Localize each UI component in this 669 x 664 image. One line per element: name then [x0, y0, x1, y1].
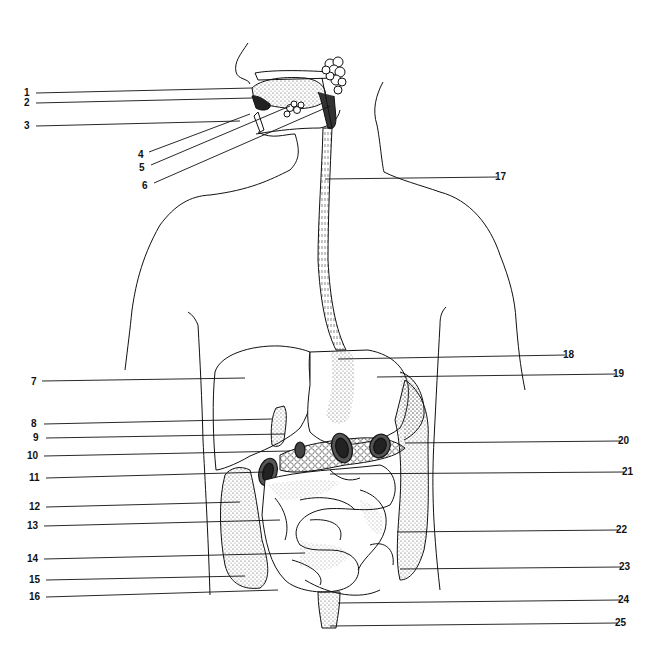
label-number-25: 25: [615, 618, 626, 628]
label-number-8: 8: [31, 419, 37, 429]
leader-line-15: [46, 576, 245, 580]
leader-line-24: [338, 600, 620, 603]
leader-line-1: [36, 88, 252, 93]
oral-cavity: [252, 57, 346, 134]
neck-left: [210, 132, 298, 195]
label-number-6: 6: [142, 181, 148, 191]
label-number-24: 24: [618, 595, 629, 605]
label-number-20: 20: [618, 436, 629, 446]
label-number-10: 10: [27, 451, 38, 461]
label-number-5: 5: [139, 163, 145, 173]
label-number-13: 13: [27, 521, 38, 531]
rectum: [318, 592, 340, 628]
torso-right: [433, 307, 446, 590]
label-number-9: 9: [33, 433, 39, 443]
label-number-12: 12: [29, 502, 40, 512]
label-number-11: 11: [29, 473, 40, 483]
anatomy-drawing: [0, 0, 669, 664]
label-number-2: 2: [24, 98, 30, 108]
leader-line-25: [330, 623, 617, 626]
small-intestine: [262, 465, 395, 595]
label-number-23: 23: [619, 562, 630, 572]
face-profile: [236, 43, 250, 84]
leader-line-22: [397, 530, 618, 532]
torso-left: [188, 312, 210, 595]
leader-line-6: [154, 106, 330, 183]
label-number-18: 18: [563, 350, 574, 360]
left-arm: [125, 195, 210, 370]
label-number-19: 19: [613, 369, 624, 379]
label-number-4: 4: [138, 150, 144, 160]
label-number-15: 15: [29, 575, 40, 585]
leader-line-19: [377, 374, 615, 377]
leader-line-16: [46, 590, 278, 597]
esophagus: [318, 128, 346, 350]
label-number-16: 16: [29, 592, 40, 602]
label-number-22: 22: [616, 525, 627, 535]
leader-line-3: [36, 121, 240, 126]
label-number-3: 3: [24, 121, 30, 131]
label-number-14: 14: [27, 554, 38, 564]
neck-right: [375, 82, 440, 192]
leader-line-12: [46, 502, 240, 507]
leader-line-2: [36, 98, 252, 103]
leader-line-4: [149, 114, 250, 152]
leader-line-23: [400, 567, 621, 569]
label-number-7: 7: [31, 377, 37, 387]
leader-line-20: [405, 441, 620, 443]
label-number-21: 21: [622, 467, 633, 477]
digestive-system-diagram: 1234567891011121314151617181920212223242…: [0, 0, 669, 664]
right-arm: [440, 192, 525, 390]
label-number-17: 17: [495, 172, 506, 182]
leader-line-17: [325, 177, 497, 179]
